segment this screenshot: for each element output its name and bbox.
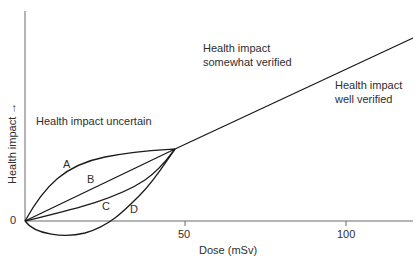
y-axis-title: Health impact → (6, 103, 18, 184)
x-tick-label-100: 100 (337, 228, 355, 240)
curve-d (25, 149, 175, 235)
curve-label-c: C (102, 200, 110, 212)
dose-response-diagram: A B C D 0 50 100 Dose (mSv) Health impac… (0, 0, 419, 262)
x-tick-label-50: 50 (178, 228, 190, 240)
region-somewhat-line2: somewhat verified (203, 56, 292, 68)
region-somewhat-line1: Health impact (203, 42, 270, 54)
x-axis-title: Dose (mSv) (199, 244, 257, 256)
curve-b (25, 149, 175, 221)
origin-label: 0 (10, 214, 16, 226)
curve-label-d: D (130, 203, 138, 215)
curve-label-b: B (87, 173, 94, 185)
region-uncertain: Health impact uncertain (36, 115, 152, 127)
region-well-line1: Health impact (335, 79, 402, 91)
curve-label-a: A (63, 158, 71, 170)
region-well-line2: well verified (334, 93, 392, 105)
